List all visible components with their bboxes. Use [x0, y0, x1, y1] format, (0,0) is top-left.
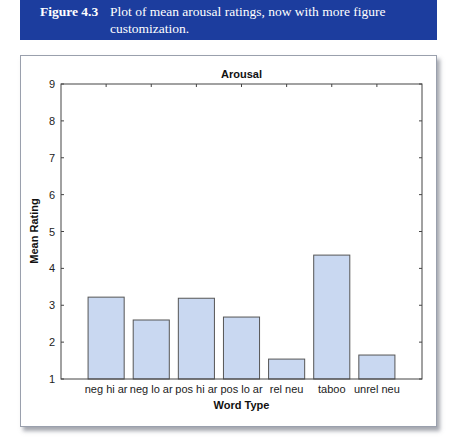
x-tick-label: taboo	[318, 383, 346, 395]
y-tick-label: 3	[49, 299, 55, 311]
y-tick-label: 9	[49, 78, 55, 90]
y-tick-label: 5	[49, 226, 55, 238]
x-tick-label: pos lo ar	[220, 383, 263, 395]
x-axis-label: Word Type	[214, 399, 270, 411]
y-axis-label: Mean Rating	[28, 198, 40, 263]
x-tick-label: neg lo ar	[130, 383, 173, 395]
bar-pos-lo-ar	[223, 317, 259, 379]
y-tick-label: 8	[49, 115, 55, 127]
x-tick-label: unrel neu	[354, 383, 400, 395]
y-tick-label: 2	[49, 336, 55, 348]
bar-neg-hi-ar	[88, 297, 124, 379]
y-tick-label: 4	[49, 262, 55, 274]
bar-chart: Arousal 123456789 neg hi arneg lo arpos …	[0, 0, 457, 442]
x-tick-label: rel neu	[270, 383, 304, 395]
x-tick-label: neg hi ar	[85, 383, 128, 395]
bar-neg-lo-ar	[133, 320, 169, 379]
bar-rel-neu	[269, 359, 305, 379]
x-tick-label: pos hi ar	[175, 383, 218, 395]
y-tick-label: 6	[49, 189, 55, 201]
bar-taboo	[314, 255, 350, 379]
chart-title: Arousal	[221, 68, 262, 80]
bar-unrel-neu	[359, 355, 395, 379]
bars-group	[88, 255, 395, 379]
y-tick-label: 1	[49, 373, 55, 385]
bar-pos-hi-ar	[178, 298, 214, 379]
y-tick-label: 7	[49, 152, 55, 164]
